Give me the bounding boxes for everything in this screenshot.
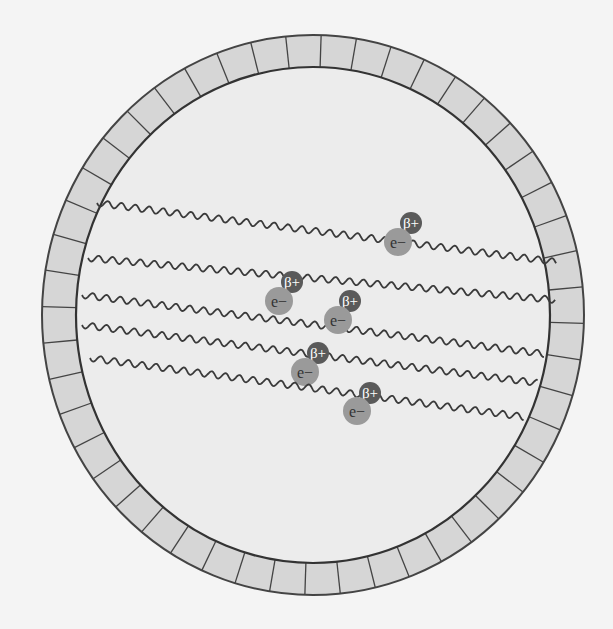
diagram-canvas: β+e−β+e−β+e−β+e−β+e− xyxy=(0,0,613,629)
positron-label: β+ xyxy=(284,274,300,290)
electron: e− xyxy=(324,306,352,334)
positron-label: β+ xyxy=(403,215,419,231)
positron-label: β+ xyxy=(342,293,358,309)
detector-ring-diagram: β+e−β+e−β+e−β+e−β+e− xyxy=(0,0,613,629)
electron: e− xyxy=(343,397,371,425)
electron-label: e− xyxy=(349,403,365,420)
ring-interior xyxy=(76,67,550,563)
electron: e− xyxy=(265,287,293,315)
electron-label: e− xyxy=(390,234,406,251)
electron-label: e− xyxy=(297,364,313,381)
electron: e− xyxy=(384,228,412,256)
detector-ring xyxy=(42,35,584,595)
electron-label: e− xyxy=(271,293,287,310)
positron-label: β+ xyxy=(362,385,378,401)
electron-label: e− xyxy=(330,312,346,329)
positron-label: β+ xyxy=(310,345,326,361)
